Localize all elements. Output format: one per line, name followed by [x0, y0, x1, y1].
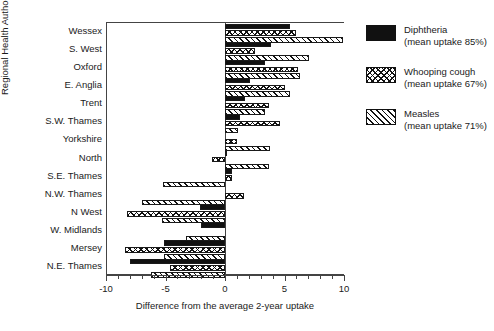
y-axis-label-2: Oxford [2, 62, 102, 72]
legend-series-name: Measles [404, 108, 492, 120]
x-tick [213, 275, 214, 279]
x-tick-label-0: -10 [91, 283, 121, 294]
bar-whooping-cough [225, 103, 269, 109]
legend-series-name: Whooping cough [404, 66, 492, 78]
x-tick [308, 275, 309, 279]
legend-series-sub: (mean uptake 67%) [404, 78, 492, 90]
x-axis-title: Difference from the average 2-year uptak… [106, 300, 344, 311]
bar-whooping-cough [225, 139, 237, 145]
bar-diphtheria [200, 204, 225, 210]
bar-whooping-cough [212, 157, 225, 163]
bar-diphtheria [130, 259, 225, 265]
x-tick [344, 275, 345, 281]
bar-whooping-cough [225, 30, 296, 36]
legend-label: Diphtheria(mean uptake 85%) [404, 24, 492, 47]
chart-figure: Regional Health Authority WessexS. WestO… [0, 0, 494, 331]
legend-series-sub: (mean uptake 85%) [404, 36, 492, 48]
bar-diphtheria [225, 150, 227, 156]
bar-whooping-cough [225, 175, 232, 181]
bar-diphtheria [225, 96, 245, 102]
y-axis-label-7: North [2, 153, 102, 163]
legend-series-name: Diphtheria [404, 24, 492, 36]
x-tick [177, 275, 178, 279]
bar-whooping-cough [127, 211, 225, 217]
x-tick [225, 275, 226, 281]
y-axis-tick-labels: WessexS. WestOxfordE. AngliaTrentS.W. Th… [0, 22, 102, 275]
legend-swatch [366, 109, 396, 125]
x-tick [261, 275, 262, 279]
bar-whooping-cough [170, 265, 225, 271]
y-axis-label-8: S.E. Thames [2, 171, 102, 181]
x-tick [130, 275, 131, 279]
y-axis-label-11: W. Midlands [2, 225, 102, 235]
x-tick [320, 275, 321, 279]
bar-whooping-cough [225, 85, 285, 91]
legend-item-measles: Measles(mean uptake 71%) [366, 108, 492, 136]
x-tick [154, 275, 155, 279]
plot-area [106, 22, 344, 275]
x-tick-label-3: 5 [270, 283, 300, 294]
y-axis-label-1: S. West [2, 44, 102, 54]
bar-whooping-cough [225, 121, 280, 127]
x-tick [249, 275, 250, 279]
x-tick-label-4: 10 [329, 283, 359, 294]
x-tick [296, 275, 297, 279]
legend-item-whooping-cough: Whooping cough(mean uptake 67%) [366, 66, 492, 94]
bar-whooping-cough [225, 67, 298, 73]
x-tick [142, 275, 143, 279]
bar-diphtheria [225, 168, 232, 174]
bar-whooping-cough [225, 193, 244, 199]
x-tick [285, 275, 286, 281]
bar-diphtheria [164, 240, 225, 246]
x-tick-label-1: -5 [151, 283, 181, 294]
x-tick [237, 275, 238, 279]
y-axis-label-13: N.E. Thames [2, 261, 102, 271]
bar-diphtheria [225, 114, 240, 120]
bar-diphtheria [225, 24, 290, 30]
bar-diphtheria [225, 78, 250, 84]
legend-item-diphtheria: Diphtheria(mean uptake 85%) [366, 24, 492, 52]
bar-whooping-cough [225, 48, 255, 54]
bar-diphtheria [225, 42, 271, 48]
bar-diphtheria [225, 60, 265, 66]
legend: Diphtheria(mean uptake 85%)Whooping coug… [366, 24, 492, 150]
y-axis-label-4: Trent [2, 98, 102, 108]
legend-series-sub: (mean uptake 71%) [404, 120, 492, 132]
y-axis-label-0: Wessex [2, 26, 102, 36]
legend-label: Whooping cough(mean uptake 67%) [404, 66, 492, 89]
y-axis-label-5: S.W. Thames [2, 116, 102, 126]
y-axis-label-6: Yorkshire [2, 134, 102, 144]
y-axis-label-3: E. Anglia [2, 80, 102, 90]
x-tick [166, 275, 167, 281]
y-axis-label-10: N West [2, 207, 102, 217]
x-tick-label-2: 0 [210, 283, 240, 294]
bar-diphtheria [201, 222, 225, 228]
bar-whooping-cough [125, 247, 225, 253]
x-tick [189, 275, 190, 279]
y-axis-label-9: N.W. Thames [2, 189, 102, 199]
x-tick [201, 275, 202, 279]
legend-label: Measles(mean uptake 71%) [404, 108, 492, 131]
legend-swatch [366, 67, 396, 83]
x-tick [273, 275, 274, 279]
y-axis-label-12: Mersey [2, 243, 102, 253]
x-tick [106, 275, 107, 281]
x-tick [332, 275, 333, 279]
legend-swatch [366, 25, 396, 41]
x-tick [118, 275, 119, 279]
